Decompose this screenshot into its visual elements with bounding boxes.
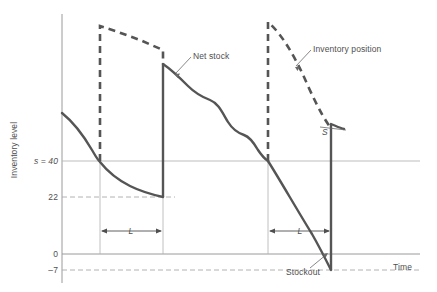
leader-line-inventory-position (296, 50, 311, 66)
annotation-lead-time-2: L (298, 226, 303, 236)
inventory-position-curve-2 (268, 22, 331, 161)
annotation-inventory-position: Inventory position (313, 44, 381, 54)
y-tick-label-s40: s = 40 (34, 156, 58, 166)
net-stock-curve-segment-b (163, 64, 268, 161)
y-axis-title: Inventory level (9, 122, 19, 178)
annotation-order-up-to-level: S (322, 127, 328, 137)
y-tick-label-minus7: –7 (48, 265, 58, 275)
net-stock-curve-segment-a (62, 113, 163, 197)
x-axis-title: Time (393, 262, 412, 272)
leader-line-net-stock (176, 57, 191, 73)
annotation-net-stock: Net stock (193, 51, 229, 61)
annotation-lead-time-1: L (129, 226, 134, 236)
inventory-position-curve-1 (100, 26, 163, 161)
y-tick-label-0: 0 (53, 249, 58, 259)
y-tick-label-22: 22 (48, 192, 58, 202)
chart-figure: Inventory level s = 40 22 0 –7 Time Net … (0, 0, 437, 292)
annotation-stockout: Stockout (286, 267, 320, 277)
